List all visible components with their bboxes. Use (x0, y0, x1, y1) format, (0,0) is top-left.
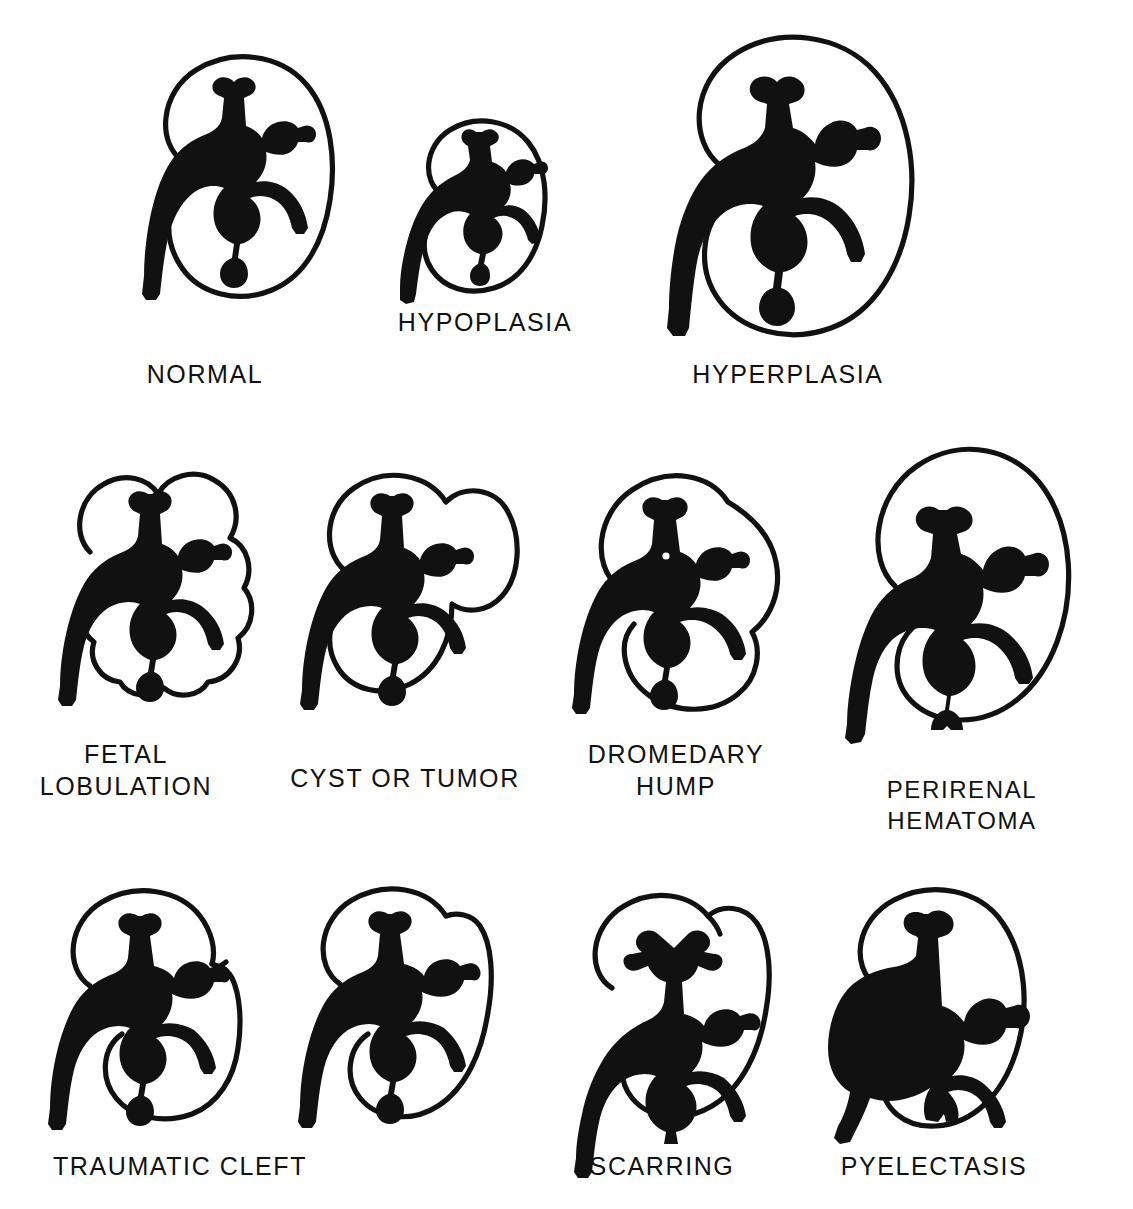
sinus-dot (662, 552, 669, 559)
caption-normal: NORMAL (147, 358, 264, 390)
panel-perirenal-hematoma (833, 428, 1091, 728)
panel-normal (120, 32, 350, 317)
collecting-system (400, 129, 548, 304)
caption-dromedary-hump: DROMEDARY HUMP (588, 738, 764, 802)
panel-traumatic-cleft-b (288, 872, 518, 1140)
caption-hypoplasia: HYPOPLASIA (398, 306, 572, 338)
caption-traumatic-cleft: TRAUMATIC CLEFT (53, 1150, 307, 1182)
panel-dromedary-hump (562, 452, 802, 720)
caption-pyelectasis: PYELECTASIS (841, 1150, 1028, 1182)
panel-traumatic-cleft-a (36, 872, 266, 1140)
caption-perirenal-hematoma: PERIRENAL HEMATOMA (877, 775, 1048, 836)
caption-cyst-or-tumor: CYST OR TUMOR (290, 762, 520, 794)
panel-scarring (562, 876, 792, 1142)
collecting-system (300, 493, 474, 710)
panel-hyperplasia (655, 18, 950, 348)
panel-hypoplasia (392, 90, 560, 310)
caption-scarring: SCARRING (590, 1150, 735, 1182)
caption-fetal-lobulation: FETAL LOBULATION (40, 738, 213, 802)
panel-pyelectasis (820, 878, 1058, 1144)
scar-notch-line (708, 916, 720, 934)
collecting-system (58, 491, 232, 706)
caption-hyperplasia: HYPERPLASIA (692, 358, 883, 390)
collecting-system (572, 497, 750, 714)
collecting-system (574, 930, 761, 1178)
panel-cyst-or-tumor (296, 462, 526, 712)
kidney-variants-figure: NORMAL HYPOPLASIA HYPERPLASIA FETAL LOBU… (0, 0, 1133, 1209)
panel-fetal-lobulation (44, 442, 264, 708)
